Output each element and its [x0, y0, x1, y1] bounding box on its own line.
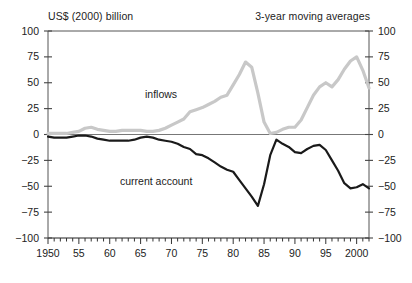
x-axis-label: 65 — [135, 247, 147, 259]
y-axis-label: −25 — [21, 154, 39, 166]
chart-plot-area: 10010075755050252500−25−25−50−50−75−75−1… — [0, 0, 412, 283]
y-axis-label-right: −25 — [378, 154, 396, 166]
y-axis-label-right: 25 — [378, 102, 390, 114]
axes-group: 10010075755050252500−25−25−50−50−75−75−1… — [15, 25, 401, 259]
x-axis-label: 1950 — [36, 247, 60, 259]
x-axis-label: 55 — [73, 247, 85, 259]
x-axis-label: 2000 — [345, 247, 369, 259]
y-axis-label: 100 — [21, 25, 39, 37]
y-axis-label: 0 — [33, 128, 39, 140]
x-axis-label: 95 — [320, 247, 332, 259]
y-axis-label: 75 — [27, 50, 39, 62]
x-axis-label: 75 — [196, 247, 208, 259]
x-axis-label: 80 — [227, 247, 239, 259]
y-axis-label: 50 — [27, 76, 39, 88]
series-line-current-account — [48, 136, 369, 206]
chart-figure: US$ (2000) billion 3-year moving average… — [0, 0, 412, 283]
y-axis-label: −100 — [15, 232, 39, 244]
y-axis-label: 25 — [27, 102, 39, 114]
x-axis-label: 60 — [104, 247, 116, 259]
y-axis-label-right: 50 — [378, 76, 390, 88]
series-group — [48, 57, 369, 206]
y-axis-label-right: −75 — [378, 206, 396, 218]
y-axis-label-right: −100 — [378, 232, 402, 244]
y-axis-label: −50 — [21, 180, 39, 192]
y-axis-label: −75 — [21, 206, 39, 218]
x-axis-label: 85 — [258, 247, 270, 259]
series-label-current-account: current account — [120, 175, 192, 187]
y-axis-label-right: 100 — [378, 25, 396, 37]
y-axis-label-right: 0 — [378, 128, 384, 140]
series-line-inflows — [48, 57, 369, 134]
series-label-inflows: inflows — [145, 88, 177, 100]
y-axis-label-right: 75 — [378, 50, 390, 62]
y-axis-label-right: −50 — [378, 180, 396, 192]
x-axis-label: 90 — [289, 247, 301, 259]
x-axis-label: 70 — [166, 247, 178, 259]
